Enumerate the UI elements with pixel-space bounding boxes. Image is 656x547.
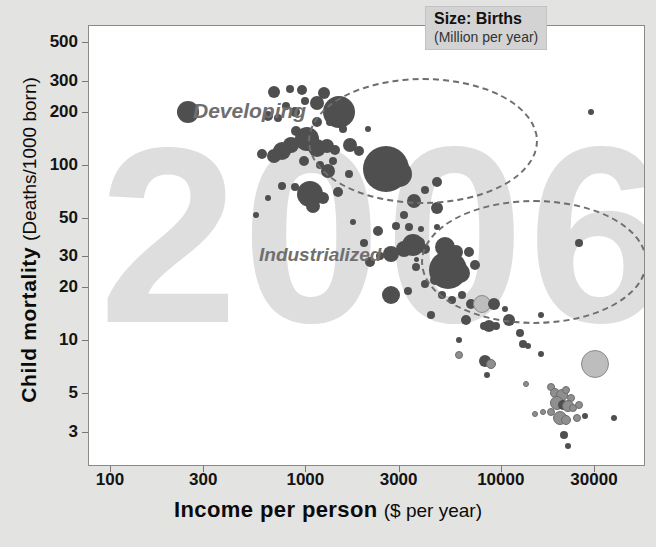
data-bubble[interactable] (373, 226, 383, 236)
y-tick-label: 50 (59, 208, 78, 228)
data-bubble[interactable] (532, 411, 538, 417)
y-axis-title-main: Child mortality (17, 247, 40, 403)
y-tick-label: 10 (59, 330, 78, 350)
annotation-industrialized: Industrialized (259, 244, 381, 266)
data-bubble[interactable] (461, 315, 471, 325)
x-tick-mark (501, 466, 502, 472)
data-bubble[interactable] (484, 372, 490, 378)
y-tick-label: 500 (50, 32, 78, 52)
x-tick-mark (594, 466, 595, 472)
data-bubble[interactable] (455, 351, 463, 359)
y-tick-label: 5 (69, 383, 78, 403)
data-bubble[interactable] (253, 212, 259, 218)
size-legend-title: Size: Births (434, 10, 538, 29)
data-bubble[interactable] (525, 343, 531, 349)
data-bubble[interactable] (392, 222, 400, 230)
data-bubble[interactable] (588, 109, 594, 115)
y-tick-label: 30 (59, 246, 78, 266)
data-bubble[interactable] (267, 149, 281, 163)
data-bubble[interactable] (561, 415, 571, 425)
data-bubble[interactable] (565, 443, 571, 449)
data-bubble[interactable] (299, 156, 309, 166)
cluster-ellipse-developing (308, 78, 538, 204)
data-bubble[interactable] (573, 414, 581, 422)
data-bubble[interactable] (560, 431, 568, 439)
data-bubble[interactable] (582, 413, 588, 419)
data-bubble[interactable] (278, 182, 286, 190)
x-axis-title: Income per person ($ per year) (0, 497, 656, 523)
data-bubble[interactable] (318, 87, 330, 99)
y-tick-label: 300 (50, 71, 78, 91)
x-tick-label: 100 (96, 470, 124, 490)
x-tick-label: 10000 (477, 470, 524, 490)
data-bubble[interactable] (400, 211, 408, 219)
cluster-ellipse-industrialized (421, 200, 645, 324)
data-bubble[interactable] (404, 287, 412, 295)
y-axis-title-unit: (Deaths/1000 born) (19, 77, 40, 241)
data-bubble[interactable] (575, 401, 583, 409)
data-bubble[interactable] (418, 226, 424, 232)
data-bubble[interactable] (405, 223, 413, 231)
x-tick-label: 30000 (570, 470, 617, 490)
y-tick-label: 100 (50, 155, 78, 175)
data-bubble[interactable] (333, 187, 343, 197)
annotation-pointer-dot (414, 257, 419, 262)
data-bubble[interactable] (286, 85, 294, 93)
data-bubble[interactable] (492, 322, 500, 330)
data-bubble[interactable] (297, 85, 307, 95)
y-tick-label: 200 (50, 102, 78, 122)
data-bubble[interactable] (486, 359, 496, 369)
size-legend-unit: (Million per year) (434, 29, 538, 46)
data-bubble[interactable] (456, 337, 462, 343)
data-bubble[interactable] (562, 386, 570, 394)
y-tick-label: 20 (59, 277, 78, 297)
x-tick-label: 1000 (286, 470, 324, 490)
data-bubble[interactable] (382, 286, 400, 304)
x-tick-mark (203, 466, 204, 472)
data-bubble[interactable] (516, 329, 524, 337)
data-bubble[interactable] (317, 192, 329, 204)
data-bubble[interactable] (268, 86, 280, 98)
data-bubble[interactable] (538, 351, 544, 357)
x-tick-label: 3000 (380, 470, 418, 490)
annotation-developing: Developing (193, 99, 306, 123)
x-tick-mark (110, 466, 111, 472)
data-bubble[interactable] (306, 199, 320, 213)
data-bubble[interactable] (611, 415, 617, 421)
data-bubble[interactable] (412, 263, 420, 271)
x-tick-label: 300 (189, 470, 217, 490)
chart-root: Child mortality (Deaths/1000 born) Incom… (0, 0, 656, 547)
plot-area: 2006 Developing Industrialized (88, 25, 645, 466)
data-bubble[interactable] (581, 350, 609, 378)
data-bubble[interactable] (427, 311, 435, 319)
data-bubble[interactable] (383, 246, 399, 262)
y-tick-label: 3 (69, 422, 78, 442)
data-bubble[interactable] (350, 219, 356, 225)
data-bubble[interactable] (523, 381, 529, 387)
data-bubble[interactable] (265, 195, 271, 201)
x-tick-mark (399, 466, 400, 472)
x-axis-title-main: Income per person (174, 497, 378, 522)
size-legend: Size: Births (Million per year) (425, 6, 547, 50)
data-bubble[interactable] (540, 409, 546, 415)
x-axis-title-unit: ($ per year) (384, 500, 482, 521)
x-tick-mark (305, 466, 306, 472)
data-bubble[interactable] (257, 149, 267, 159)
y-axis-title: Child mortality (Deaths/1000 born) (17, 25, 41, 455)
